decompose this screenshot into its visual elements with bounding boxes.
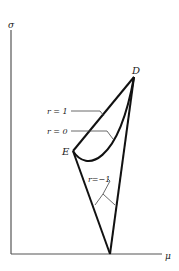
point-d-label: D [131, 65, 140, 76]
sigma-axis-label: σ [8, 20, 15, 30]
rneg1-leader-right [103, 194, 115, 205]
portfolio-frontier-diagram: σ μ D E r = 1 r = 0 r=−1 [0, 0, 179, 271]
r1-label: r = 1 [47, 107, 68, 116]
r0-label: r = 0 [47, 127, 68, 136]
point-e-label: E [61, 146, 70, 157]
rneg1-label: r=−1 [88, 175, 110, 184]
r1-leader [71, 111, 104, 116]
r0-leader [71, 131, 113, 139]
rneg1-right-segment [110, 77, 134, 254]
mu-axis-label: μ [165, 251, 171, 261]
rneg1-left-segment [73, 151, 110, 254]
